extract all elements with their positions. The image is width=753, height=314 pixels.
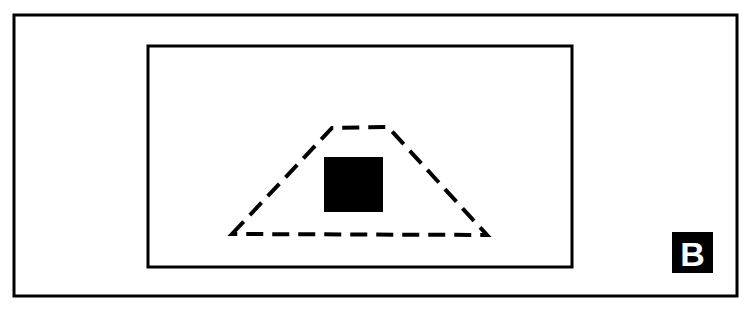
figure-panel-b: B (0, 0, 753, 314)
figure-drawing-canvas: B (0, 0, 753, 314)
black-filled-square (324, 157, 383, 212)
panel-label-badge: B (672, 232, 713, 273)
panel-label-letter: B (680, 235, 705, 273)
